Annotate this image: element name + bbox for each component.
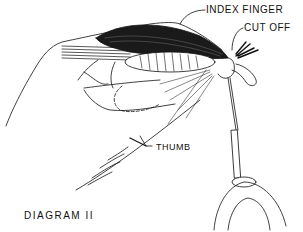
index-finger-label: INDEX FINGER	[206, 4, 283, 15]
bobbin	[228, 78, 241, 178]
hook-eye	[232, 64, 256, 86]
cut-off-label: CUT OFF	[244, 22, 291, 33]
hackle-fibers	[160, 70, 214, 124]
fly-body	[125, 52, 215, 72]
diagram-caption: DIAGRAM II	[24, 210, 94, 221]
index-finger-leader	[180, 10, 205, 24]
thumb-label: THUMB	[156, 142, 191, 152]
cut-off-tuft	[236, 42, 258, 58]
vise-jaw	[214, 177, 286, 230]
diagram-illustration	[0, 0, 303, 232]
